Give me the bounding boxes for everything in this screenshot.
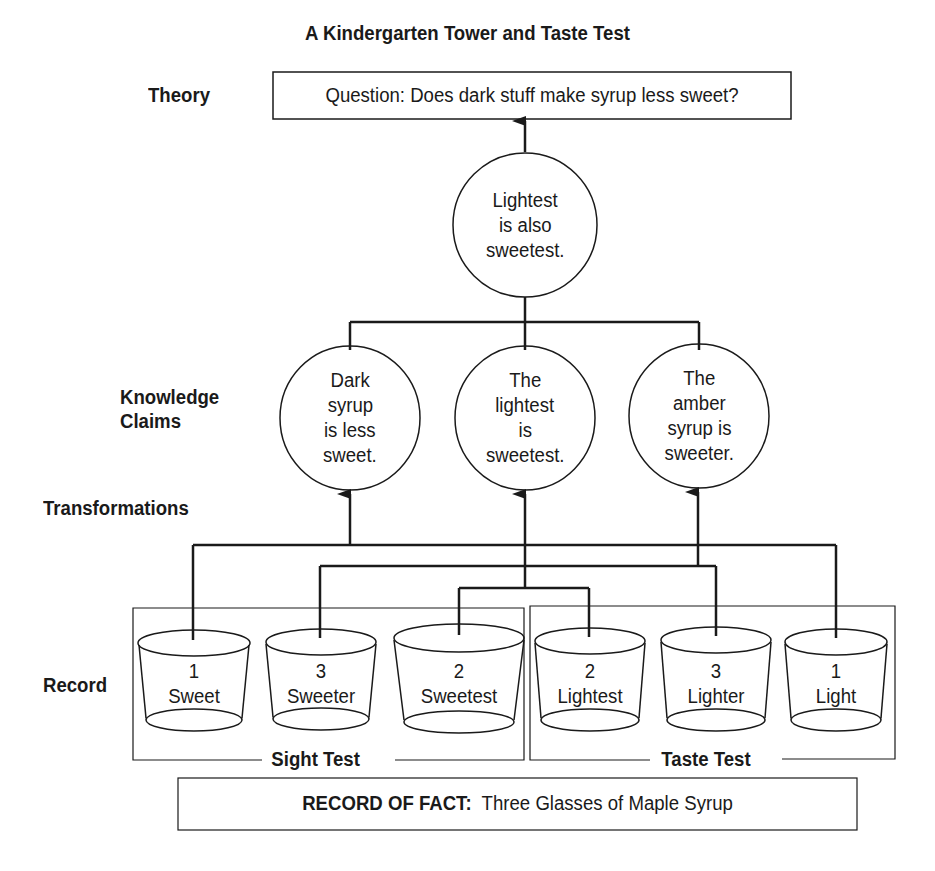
taste-cup-3: 1 Light [786,659,886,709]
summary-claim: Lightest is also sweetest. [453,153,597,297]
cup-label: Sweet [148,684,241,709]
claim-line: amber [673,391,726,416]
cup-number: 1 [148,659,241,684]
record-of-fact-text: Three Glasses of Maple Syrup [482,792,733,814]
cup-number: 2 [544,659,637,684]
row-label-record: Record [43,674,107,697]
taste-cup-1: 2 Lightest [540,659,640,709]
diagram-title: A Kindergarten Tower and Taste Test [33,22,903,45]
claim-line: syrup [327,393,372,418]
claim-line: is [518,418,531,443]
summary-claim-line: sweetest. [486,238,565,263]
claim-line: sweeter. [664,441,733,466]
row-label-transformations: Transformations [43,497,189,520]
sight-cup-1: 1 Sweet [144,659,244,709]
taste-cup-2: 3 Lighter [666,659,766,709]
theory-question: Question: Does dark stuff make syrup les… [291,84,773,107]
sight-test-label: Sight Test [266,748,366,771]
cup-number: 2 [408,659,510,684]
cup-label: Lighter [670,684,763,709]
cup-label: Sweetest [408,684,510,709]
sight-cup-3: 2 Sweetest [404,659,514,709]
cup-label: Sweeter [275,684,368,709]
knowledge-claim-3: The amber syrup is sweeter. [629,344,769,488]
taste-test-label: Taste Test [656,748,756,771]
knowledge-claim-2: The lightest is sweetest. [455,346,595,490]
claim-line: The [683,366,715,391]
cup-label: Light [790,684,883,709]
claim-line: syrup is [667,416,731,441]
claim-line: The [509,368,541,393]
summary-claim-line: is also [499,213,552,238]
knowledge-claim-1: Dark syrup is less sweet. [280,346,420,490]
claim-line: sweetest. [486,443,565,468]
cup-number: 1 [790,659,883,684]
cup-number: 3 [275,659,368,684]
claim-line: sweet. [323,443,377,468]
cup-number: 3 [670,659,763,684]
row-label-knowledge: Knowledge [120,386,219,409]
summary-claim-line: Lightest [492,188,557,213]
cup-label: Lightest [544,684,637,709]
row-label-claims: Claims [120,410,181,433]
row-label-theory: Theory [148,84,210,107]
claim-line: lightest [496,393,555,418]
claim-line: is less [324,418,376,443]
claim-line: Dark [330,368,369,393]
sight-cup-2: 3 Sweeter [271,659,371,709]
record-of-fact: RECORD OF FACT: Three Glasses of Maple S… [202,792,833,815]
record-of-fact-label: RECORD OF FACT: [302,792,471,814]
